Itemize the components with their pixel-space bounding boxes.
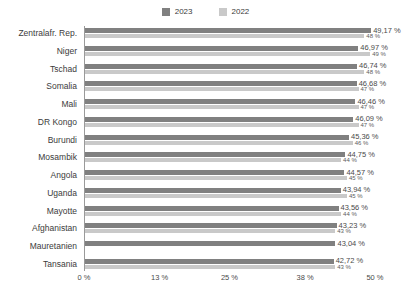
category-label: Mosambik [0,150,80,164]
category-label: Burundi [0,133,80,147]
bar-row-2023: 46,97 % [84,46,375,51]
bar-value-label-2022: 48 % [366,69,380,75]
bar-row-2023: 49,17 % [84,28,375,33]
bar-value-label-2022: 47 % [361,104,375,110]
axis-tick-label: 0 % [78,274,91,282]
bar-2022[interactable] [85,87,359,91]
square-swatch-icon [219,8,227,16]
bar-value-label-2022: 45 % [349,193,363,199]
bar-group: 46,46 %47 % [84,97,375,111]
bar-2022[interactable] [85,34,364,38]
bar-row-2022: 44 % [84,212,375,216]
bar-2023[interactable] [85,223,337,228]
bar-2022[interactable] [85,52,370,56]
bar-value-label-2022: 43 % [337,228,351,234]
bar-value-label-2022: 43 % [337,264,351,270]
category-label: Afghanistan [0,221,80,235]
bar-2023[interactable] [85,206,339,211]
category-label: Tansania [0,257,80,271]
bar-group: 46,09 %47 % [84,115,375,129]
bar-2022[interactable] [85,194,347,198]
bar-row-2022: 47 % [84,105,375,109]
bar-row-2023: 43,23 % [84,223,375,228]
category-label: Zentralafr. Rep. [0,26,80,40]
bar-2023[interactable] [85,259,334,264]
bar-row-2022: 45 % [84,176,375,180]
bar-row-2022: 43 % [84,265,375,269]
bar-group: 46,97 %49 % [84,44,375,58]
bar-row-2022: 43 % [84,229,375,233]
bar-row-2022: 47 % [84,123,375,127]
bar-group: 43,04 % [84,239,375,253]
bar-2023[interactable] [85,64,357,69]
bar-value-label-2022: 48 % [366,33,380,39]
plot-area: 49,17 %48 %46,97 %49 %46,74 %48 %46,68 %… [84,26,375,271]
bar-2022[interactable] [85,105,359,109]
bar-group: 44,75 %44 % [84,150,375,164]
category-label: Tschad [0,62,80,76]
bar-2023[interactable] [85,81,357,86]
legend-label: 2023 [175,8,193,16]
bar-row-2022: 48 % [84,34,375,38]
category-label: Mayotte [0,204,80,218]
bar-2023[interactable] [85,117,353,122]
legend-label: 2022 [232,8,250,16]
axis-tick-label: 38 % [297,274,314,282]
bar-row-2022: 44 % [84,158,375,162]
bar-group: 45,36 %46 % [84,133,375,147]
bar-row-2022: 45 % [84,194,375,198]
axis-tick-label: 13 % [151,274,168,282]
bar-value-label-2022: 49 % [372,51,386,57]
bar-row-2023: 46,09 % [84,117,375,122]
bar-row-2023: 44,57 % [84,170,375,175]
bar-2022[interactable] [85,212,341,216]
bar-value-label-2022: 45 % [349,175,363,181]
bar-2023[interactable] [85,241,335,246]
bar-group: 42,72 %43 % [84,257,375,271]
bar-value-label-2022: 46 % [355,140,369,146]
bar-2022[interactable] [85,229,335,233]
bar-value-label-2022: 44 % [343,211,357,217]
bar-2022[interactable] [85,70,364,74]
bar-value-label-2022: 47 % [361,86,375,92]
bar-value-label-2022: 44 % [343,157,357,163]
bar-2023[interactable] [85,28,371,33]
bar-row-2022: 48 % [84,70,375,74]
legend-item-2023[interactable]: 2023 [162,8,193,16]
square-swatch-icon [162,8,170,16]
bar-group: 43,56 %44 % [84,204,375,218]
category-axis: Zentralafr. Rep.NigerTschadSomaliaMaliDR… [0,26,80,271]
category-label: Angola [0,168,80,182]
bar-group: 49,17 %48 % [84,26,375,40]
bar-2022[interactable] [85,265,335,269]
category-label: Mali [0,97,80,111]
bar-row-2022: 49 % [84,52,375,56]
bar-2022[interactable] [85,141,353,145]
bar-row-2023: 45,36 % [84,135,375,140]
bar-2022[interactable] [85,176,347,180]
bar-group: 46,74 %48 % [84,62,375,76]
bar-row-2022: 47 % [84,87,375,91]
bar-2022[interactable] [85,158,341,162]
bar-2023[interactable] [85,135,349,140]
axis-tick-label: 25 % [221,274,238,282]
bar-2022[interactable] [85,123,359,127]
bar-chart: 2023 2022 Zentralafr. Rep.NigerTschadSom… [0,0,411,301]
legend-item-2022[interactable]: 2022 [219,8,250,16]
bar-group: 46,68 %47 % [84,79,375,93]
bar-2023[interactable] [85,152,345,157]
bar-2023[interactable] [85,170,344,175]
category-label: Somalia [0,79,80,93]
bar-row-2023: 43,94 % [84,188,375,193]
axis-tick-label: 50 % [366,274,383,282]
bar-2023[interactable] [85,188,341,193]
bar-rows: 49,17 %48 %46,97 %49 %46,74 %48 %46,68 %… [84,26,375,271]
category-label: DR Kongo [0,115,80,129]
bar-2023[interactable] [85,46,358,51]
bar-row-2023: 46,74 % [84,64,375,69]
category-label: Uganda [0,186,80,200]
bar-row-2023: 42,72 % [84,259,375,264]
bar-2023[interactable] [85,99,355,104]
bar-row-2023: 44,75 % [84,152,375,157]
bar-row-2022: 46 % [84,141,375,145]
